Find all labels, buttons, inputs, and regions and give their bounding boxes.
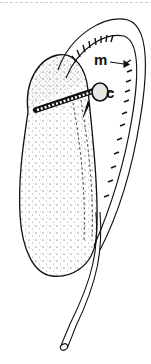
label-m: m [94, 52, 107, 67]
label-c: c [106, 85, 114, 100]
organ-illustration [0, 0, 151, 364]
